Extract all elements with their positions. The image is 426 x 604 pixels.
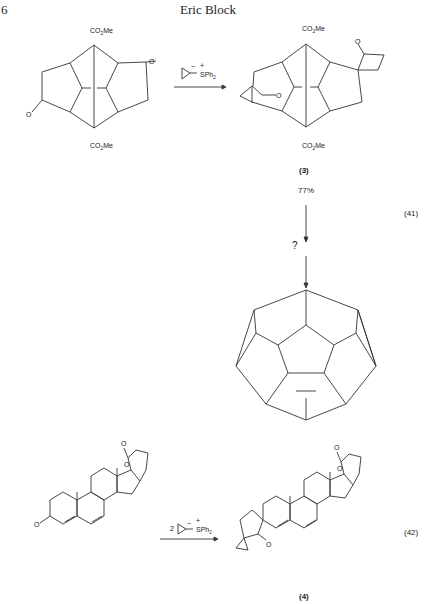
reaction-schemes: O O CO2Me CO2Me − + SPh2 O O CO2Me CO2Me xyxy=(0,0,426,604)
svg-text:2: 2 xyxy=(170,525,174,532)
oxygen-label: O xyxy=(149,58,155,65)
svg-text:CO2Me: CO2Me xyxy=(302,142,325,151)
unknown-step-label: ? xyxy=(292,240,298,251)
svg-text:−: − xyxy=(187,520,191,527)
compound-3-label: (3) xyxy=(299,166,309,175)
yield-label: 77% xyxy=(298,186,314,195)
co2me-top: CO2Me xyxy=(90,27,113,36)
svg-text:SPh2: SPh2 xyxy=(200,71,216,80)
co2me-bottom: CO2Me xyxy=(90,142,113,151)
svg-text:SPh2: SPh2 xyxy=(196,526,212,535)
svg-text:O: O xyxy=(355,38,361,45)
steroid-lactone-structure xyxy=(40,448,148,524)
starting-diketone-structure xyxy=(32,45,156,128)
svg-text:O: O xyxy=(266,541,272,548)
equation-number-41: (41) xyxy=(404,209,418,218)
svg-text:−: − xyxy=(191,63,195,70)
svg-text:O: O xyxy=(124,461,130,468)
oxygen-label: O xyxy=(26,111,32,118)
svg-text:CO2Me: CO2Me xyxy=(302,25,325,34)
svg-text:+: + xyxy=(196,517,200,524)
svg-text:O: O xyxy=(121,440,127,447)
svg-text:O: O xyxy=(34,521,40,528)
svg-text:O: O xyxy=(337,465,343,472)
product-3-structure xyxy=(240,44,384,127)
dodecahedrane-structure xyxy=(236,290,376,420)
equation-number-42: (42) xyxy=(404,528,418,537)
svg-text:+: + xyxy=(200,62,204,69)
svg-text:O: O xyxy=(276,92,282,99)
compound-4-label: (4) xyxy=(299,592,309,601)
svg-text:O: O xyxy=(334,444,340,451)
